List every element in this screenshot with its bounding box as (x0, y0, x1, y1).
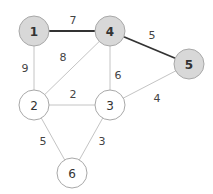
node-label: 6 (68, 167, 76, 181)
edge-weight-1-2: 9 (22, 62, 29, 75)
edge-weight-1-4: 7 (70, 14, 77, 27)
node-1: 1 (19, 16, 49, 46)
node-label: 5 (185, 58, 193, 72)
node-label: 4 (106, 25, 114, 39)
edge-weight-4-2: 8 (60, 51, 67, 64)
node-label: 2 (30, 99, 38, 113)
edge-weight-5-3: 4 (154, 92, 161, 105)
edge-weight-4-3: 6 (115, 69, 122, 82)
edge-weight-2-6: 5 (40, 135, 47, 148)
nodes-layer: 145236 (19, 16, 204, 188)
node-2: 2 (19, 90, 49, 120)
node-6: 6 (57, 158, 87, 188)
node-label: 3 (106, 99, 114, 113)
weighted-graph: 759864253 145236 (0, 0, 213, 194)
edge-weight-3-6: 3 (99, 135, 106, 148)
node-label: 1 (30, 25, 38, 39)
edge-weight-2-3: 2 (70, 88, 77, 101)
node-3: 3 (95, 90, 125, 120)
edge-weight-4-5: 5 (149, 29, 156, 42)
node-5: 5 (174, 49, 204, 79)
node-4: 4 (95, 16, 125, 46)
